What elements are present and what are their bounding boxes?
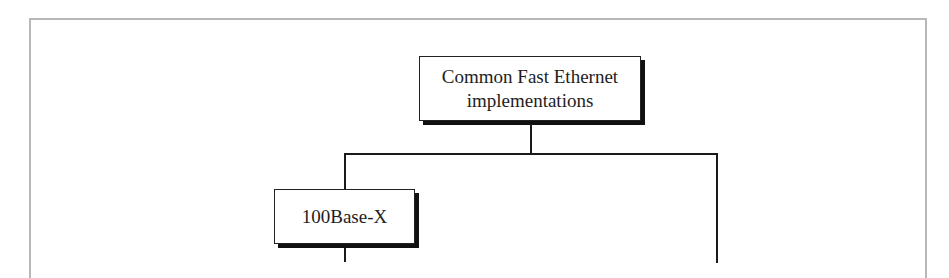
node-label: Common Fast Ethernet implementations bbox=[442, 65, 618, 113]
node-label: 100Base-X bbox=[302, 205, 387, 229]
node-common-fast-ethernet: Common Fast Ethernet implementations bbox=[419, 56, 641, 121]
connector-100basex-down bbox=[344, 247, 346, 262]
connector-to-100basex bbox=[344, 153, 346, 189]
connector-root-down bbox=[530, 124, 532, 154]
node-100base-x: 100Base-X bbox=[274, 189, 415, 244]
connector-horizontal-bar bbox=[344, 153, 718, 155]
node-label-line1: Common Fast Ethernet bbox=[442, 65, 618, 89]
connector-to-right-branch bbox=[716, 153, 718, 263]
node-label-line2: implementations bbox=[442, 89, 618, 113]
